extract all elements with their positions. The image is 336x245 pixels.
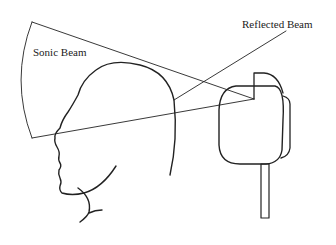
- reflected-beam-line: [174, 31, 286, 100]
- device-stand: [261, 164, 269, 218]
- head-profile: [55, 62, 176, 194]
- reflected-beam-label: Reflected Beam: [242, 18, 313, 30]
- diagram-canvas: Sonic Beam Reflected Beam: [0, 0, 336, 245]
- sonic-beam-label: Sonic Beam: [33, 46, 86, 58]
- diagram-svg: [0, 0, 336, 245]
- transducer-device: [219, 73, 290, 164]
